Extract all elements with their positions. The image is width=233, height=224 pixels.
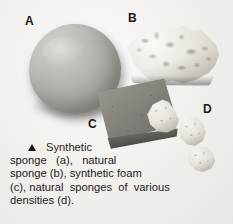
- caption-line-text: Synthetic: [46, 141, 92, 153]
- caption-line: densities (d).: [10, 194, 186, 207]
- figure-caption: Synthetic sponge (a), natural sponge (b)…: [10, 141, 186, 207]
- label-d: D: [203, 103, 212, 115]
- label-b: B: [128, 12, 137, 24]
- caption-line: sponge (a), natural: [10, 154, 186, 167]
- caption-line: Synthetic: [10, 141, 186, 154]
- sponge-figure: A B C D Synthetic sponge (a), natural sp…: [0, 0, 233, 224]
- label-c: C: [88, 118, 97, 130]
- sponge-chunk-texture: [187, 146, 216, 173]
- label-a: A: [25, 15, 34, 27]
- triangle-bullet-icon: [28, 144, 36, 151]
- caption-line: sponge (b), synthetic foam: [10, 167, 186, 180]
- caption-line: (c), natural sponges of various: [10, 181, 186, 194]
- natural-sponge-chunk: [187, 146, 216, 173]
